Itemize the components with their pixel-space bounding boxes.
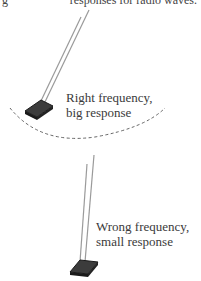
right-frequency-line2: big response xyxy=(66,105,153,120)
wrong-frequency-label: Wrong frequency, small response xyxy=(96,219,189,249)
antenna-base-tilted xyxy=(25,100,53,120)
wrong-frequency-line1: Wrong frequency, xyxy=(96,219,189,234)
right-frequency-label: Right frequency, big response xyxy=(66,90,153,120)
right-frequency-line1: Right frequency, xyxy=(66,90,153,105)
antenna-upright-icon xyxy=(70,155,98,277)
wrong-frequency-line2: small response xyxy=(96,234,189,249)
antenna-base-upright xyxy=(70,260,98,277)
